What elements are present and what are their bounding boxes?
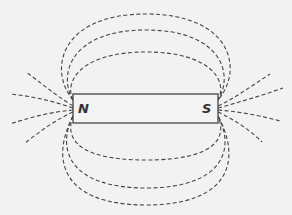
- north-spray-2: [10, 94, 73, 108]
- south-pole-label: S: [202, 101, 211, 116]
- south-spray-2: [218, 88, 283, 108]
- lower-field-loops: [63, 116, 229, 205]
- upper-loop-outer: [61, 14, 230, 100]
- south-spray-3: [218, 110, 280, 121]
- lower-loop-outer: [63, 116, 229, 205]
- upper-loop-inner: [71, 52, 221, 100]
- north-spray-4: [25, 112, 73, 143]
- north-spray-3: [10, 110, 73, 124]
- upper-loop-middle: [67, 30, 224, 100]
- upper-field-loops: [61, 14, 230, 100]
- bar-magnet-field-diagram: N S: [0, 0, 292, 215]
- north-pole-label: N: [78, 101, 89, 116]
- south-spray-1: [218, 74, 270, 106]
- bar-magnet: [73, 94, 218, 123]
